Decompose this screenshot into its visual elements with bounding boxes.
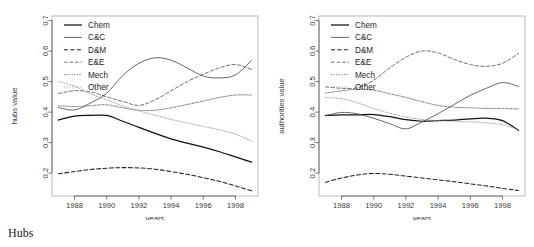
legend-label-mech: Mech [355, 71, 375, 80]
x-tick-label: 1998 [227, 201, 244, 210]
series-line-chem [58, 115, 251, 162]
y-tick-label: 0.2 [308, 168, 317, 179]
x-tick-label: 1996 [195, 201, 212, 210]
legend-label-chem: Chem [355, 21, 377, 30]
y-tick-label: 0.3 [41, 137, 50, 148]
x-tick-label: 1988 [333, 201, 350, 210]
legend-label-other: Other [355, 83, 376, 92]
panel-hubs: 0.20.30.40.50.60.71988199019921994199619… [0, 0, 267, 247]
series-line-mech [58, 95, 251, 111]
series-line-mech [325, 89, 518, 109]
x-tick-label: 1994 [163, 201, 180, 210]
x-tick-label: 1996 [462, 201, 479, 210]
figure-two-panel-line-charts: 0.20.30.40.50.60.71988199019921994199619… [0, 0, 534, 247]
y-tick-label: 0.3 [308, 137, 317, 148]
legend-label-eande: E&E [355, 58, 372, 67]
legend-label-dandm: D&M [355, 46, 373, 55]
x-tick-label: 1992 [130, 201, 147, 210]
x-axis-title: years [146, 214, 165, 220]
authorities-plot: 0.20.30.40.50.60.71988199019921994199619… [267, 0, 534, 220]
y-tick-label: 0.2 [41, 168, 50, 179]
legend-label-mech: Mech [88, 71, 108, 80]
legend-label-candc: C&C [88, 33, 105, 42]
y-tick-label: 0.4 [41, 107, 50, 118]
series-line-dandm [325, 173, 518, 190]
legend-label-candc: C&C [355, 33, 372, 42]
y-tick-label: 0.7 [308, 15, 317, 26]
legend-label-dandm: D&M [88, 46, 106, 55]
x-tick-label: 1994 [430, 201, 447, 210]
y-tick-label: 0.6 [41, 46, 50, 57]
panel-authorities: 0.20.30.40.50.60.71988199019921994199619… [267, 0, 534, 247]
y-tick-label: 0.5 [41, 76, 50, 87]
caption-hubs: Hubs [8, 226, 33, 241]
series-line-dandm [58, 168, 251, 191]
y-axis-title: hubs value [10, 88, 19, 125]
y-tick-label: 0.6 [308, 46, 317, 57]
x-tick-label: 1988 [66, 201, 83, 210]
legend-label-other: Other [88, 83, 109, 92]
x-tick-label: 1998 [494, 201, 511, 210]
legend-label-chem: Chem [88, 21, 110, 30]
y-tick-label: 0.5 [308, 76, 317, 87]
x-tick-label: 1990 [365, 201, 382, 210]
y-tick-label: 0.4 [308, 107, 317, 118]
legend-label-eande: E&E [88, 58, 105, 67]
hubs-plot: 0.20.30.40.50.60.71988199019921994199619… [0, 0, 267, 220]
x-axis-title: years [413, 214, 432, 220]
x-tick-label: 1990 [98, 201, 115, 210]
series-line-chem [325, 114, 518, 130]
y-axis-title: authorities value [277, 78, 286, 133]
x-tick-label: 1992 [397, 201, 414, 210]
y-tick-label: 0.7 [41, 15, 50, 26]
